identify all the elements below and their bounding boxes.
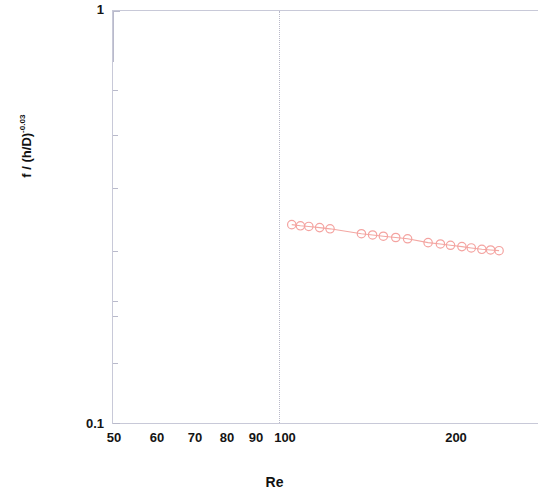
y-axis-tick-label-0.1: 0.1 (64, 416, 104, 431)
x-tick-50 (113, 11, 114, 18)
x-tick-100 (113, 38, 114, 45)
data-point (392, 233, 400, 241)
x-axis-tick-label-100: 100 (274, 430, 296, 445)
data-point (296, 222, 304, 230)
data-point (379, 232, 387, 240)
y-axis-title-base: f / (h/D) (19, 133, 34, 178)
data-point (357, 230, 365, 238)
plot-area (112, 10, 538, 424)
y-tick-0.5 (113, 301, 118, 302)
y-tick-0.8 (113, 135, 118, 136)
y-tick-0.6 (113, 251, 118, 252)
x-tick-200 (113, 45, 114, 52)
data-point (305, 222, 313, 230)
x-axis-title: Re (0, 474, 549, 490)
data-point (495, 246, 503, 254)
data-point (368, 231, 376, 239)
data-point (315, 223, 323, 231)
y-tick-0.1 (113, 423, 120, 424)
y-axis-title: f / (h/D)-0.03 (18, 138, 33, 178)
data-point (403, 235, 411, 243)
x-axis-tick-label-70: 70 (188, 430, 202, 445)
data-point (424, 238, 432, 246)
y-axis-tick-label-1: 1 (74, 2, 104, 17)
y-tick-0.3 (113, 363, 118, 364)
x-tick-top-200 (113, 57, 114, 62)
data-point (467, 244, 475, 252)
series-line (292, 225, 499, 251)
x-axis-tick-label-60: 60 (150, 430, 164, 445)
y-tick-1 (113, 11, 120, 12)
chart-figure: 1 0.1 f / (h/D)-0.03 (0, 0, 549, 501)
x-axis-tick-label-90: 90 (249, 430, 263, 445)
y-tick-0.7 (113, 188, 118, 189)
x-axis-tick-label-80: 80 (220, 430, 234, 445)
y-tick-0.45 (113, 316, 118, 317)
data-point (436, 240, 444, 248)
data-point (446, 241, 454, 249)
gridline-re-100 (279, 11, 280, 423)
y-axis-title-exponent: -0.03 (18, 115, 27, 133)
data-point (486, 246, 494, 254)
series-markers (288, 220, 504, 254)
data-point (288, 220, 296, 228)
x-axis-tick-label-200: 200 (445, 430, 467, 445)
x-axis-tick-label-50: 50 (107, 430, 121, 445)
data-series-layer (113, 11, 538, 423)
data-point (478, 245, 486, 253)
data-point (326, 225, 334, 233)
data-point (458, 242, 466, 250)
y-tick-0.9 (113, 90, 118, 91)
